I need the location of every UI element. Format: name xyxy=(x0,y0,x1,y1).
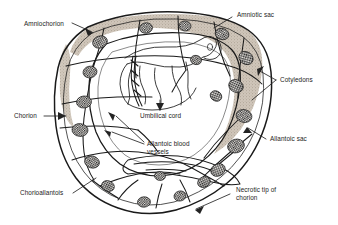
label-necrotic-tip-line1: Necrotic tip of xyxy=(236,186,276,194)
label-chorion: Chorion xyxy=(14,112,37,120)
label-allantoic-blood-vessels-line2: vessels xyxy=(147,148,169,156)
fetal-membranes-diagram: Amniochorion Amniotic sac Cotyledons Cho… xyxy=(0,0,338,225)
label-umbilical-cord: Umbilical cord xyxy=(140,112,181,120)
label-chorioallantois: Chorioallantois xyxy=(20,189,63,197)
label-amniotic-sac: Amniotic sac xyxy=(237,11,274,19)
label-cotyledons: Cotyledons xyxy=(280,76,313,84)
label-allantoic-sac: Allantoic sac xyxy=(270,135,307,143)
label-necrotic-tip-line2: chorion xyxy=(236,194,257,202)
leader-necrotic-tip xyxy=(196,194,230,209)
label-allantoic-blood-vessels-line1: Allantoic blood xyxy=(147,140,190,148)
leader-chorioallantois xyxy=(73,178,96,193)
leader-allantoic-vessels-upper xyxy=(116,116,144,142)
label-amniochorion: Amniochorion xyxy=(24,20,64,28)
